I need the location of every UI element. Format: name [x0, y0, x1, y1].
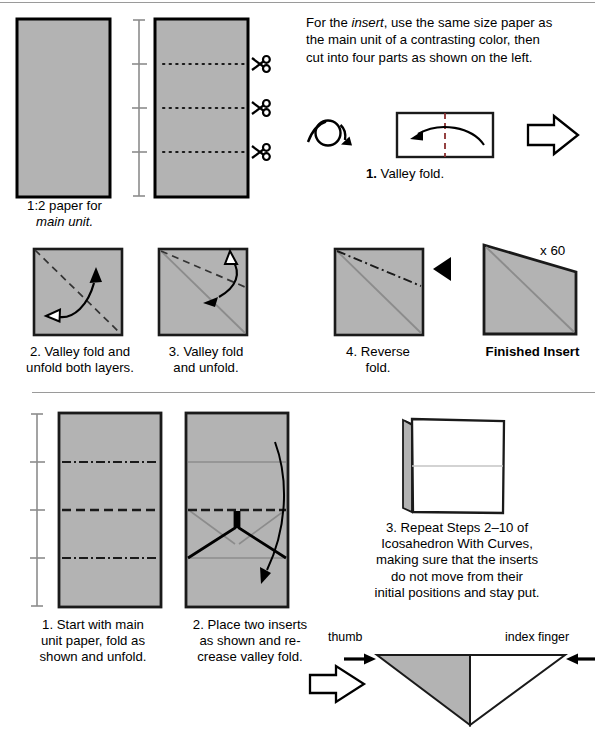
measure-bar: [30, 414, 45, 606]
measure-bar: [132, 20, 147, 196]
index-finger-label: index finger: [505, 630, 569, 644]
triangle-right-half: [470, 655, 565, 725]
index-finger-text: index finger: [505, 630, 569, 644]
bottom-step3-line3: making sure that the inserts: [376, 552, 538, 567]
intro-line1-b: , use the same size paper as: [384, 15, 553, 30]
step4-caption: 4. Reverse fold.: [328, 344, 428, 376]
bottom-step2-caption: 2. Place two inserts as shown and re- cr…: [172, 617, 328, 666]
bottom-step3-line2: Icosahedron With Curves,: [381, 536, 533, 551]
main-unit-caption-line1: 1:2 paper for: [27, 198, 102, 213]
bottom-step3-line1: 3. Repeat Steps 2–10 of: [386, 520, 528, 535]
scissors-icon-group: [252, 56, 270, 160]
back-flap: [403, 420, 412, 512]
scissors-icon: [252, 144, 270, 160]
finished-insert-label: Finished Insert: [486, 344, 580, 359]
main-unit-paper-caption: 1:2 paper for main unit.: [2, 198, 127, 230]
step1-number: 1.: [366, 166, 377, 181]
hollow-right-arrow-icon: [528, 116, 578, 154]
finished-insert-quantity: x 60: [540, 243, 592, 259]
bottom-step2-line3: crease valley fold.: [197, 649, 303, 664]
bottom-step3-caption: 3. Repeat Steps 2–10 of Icosahedron With…: [332, 520, 582, 601]
step1-caption: 1. Valley fold.: [345, 166, 465, 182]
scissors-icon: [252, 56, 270, 72]
intro-line3: cut into four parts as shown on the left…: [306, 50, 533, 65]
step2-caption-line1: 2. Valley fold and: [30, 344, 130, 359]
index-finger-arrow-icon: [566, 654, 595, 665]
cut-paper-diagram: [130, 16, 270, 200]
instruction-sheet: 1:2 paper for main unit.: [0, 0, 595, 734]
bottom-step2-line2: as shown and re-: [199, 633, 300, 648]
step4-diagram: [333, 247, 463, 337]
intro-line1-a: For the: [306, 15, 351, 30]
section-divider: [32, 392, 595, 393]
bottom-step1-line2: unit paper, fold as: [41, 633, 145, 648]
bottom-step3-line4: do not move from their: [391, 569, 523, 584]
paper-rect: [17, 19, 110, 197]
intro-insert-word: insert: [351, 15, 383, 30]
thumb-text: thumb: [328, 630, 362, 644]
step1-label: Valley fold.: [381, 166, 445, 181]
bottom-step2-diagram: [183, 410, 323, 610]
finished-insert-caption: Finished Insert: [470, 344, 595, 360]
triangle-left-half: [377, 655, 470, 725]
step3-caption: 3. Valley fold and unfold.: [140, 344, 272, 376]
intro-paragraph: For the insert, use the same size paper …: [306, 14, 588, 66]
bottom-step3-diagram: [388, 408, 518, 518]
step1-valley-fold-diagram: [300, 103, 590, 165]
scissors-icon: [252, 100, 270, 116]
step3-caption-line1: 3. Valley fold: [169, 344, 244, 359]
step4-caption-line1: 4. Reverse: [346, 344, 410, 359]
bottom-step1-line3: shown and unfold.: [39, 649, 146, 664]
step3-caption-line2: and unfold.: [173, 360, 238, 375]
step2-caption-line2: unfold both layers.: [26, 360, 134, 375]
push-arrow-icon: [433, 257, 451, 281]
bottom-step3-line5: initial positions and stay put.: [375, 585, 540, 600]
thumb-label: thumb: [328, 630, 362, 644]
thumb-arrow-icon: [344, 654, 376, 665]
bottom-step2-line1: 2. Place two inserts: [193, 617, 307, 632]
arrow-head: [341, 137, 352, 146]
bottom-step1-line1: 1. Start with main: [42, 617, 144, 632]
bottom-step1-diagram: [28, 410, 168, 610]
bottom-step1-caption: 1. Start with main unit paper, fold as s…: [18, 617, 168, 666]
top-divider: [0, 2, 595, 3]
main-unit-paper-diagram: [14, 16, 114, 200]
step2-diagram: [32, 247, 128, 337]
main-unit-caption-line2: main unit.: [36, 214, 93, 229]
intro-line2: the main unit of a contrasting color, th…: [306, 32, 540, 47]
final-triangle-diagram: [322, 645, 584, 733]
step2-caption: 2. Valley fold and unfold both layers.: [6, 344, 154, 376]
step3-diagram: [157, 247, 253, 337]
step4-caption-line2: fold.: [366, 360, 391, 375]
quantity-label: x 60: [540, 243, 565, 258]
turn-over-icon: [308, 121, 352, 146]
